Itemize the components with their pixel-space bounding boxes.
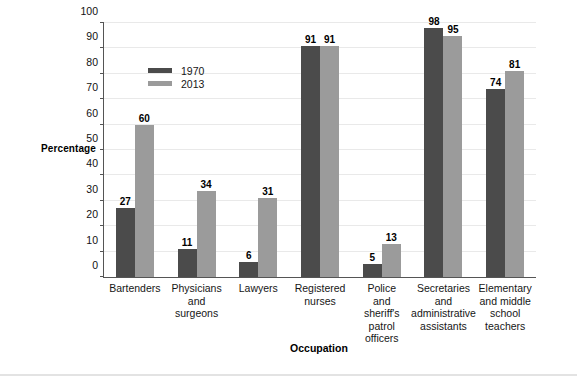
legend-label: 2013: [181, 78, 204, 90]
y-axis-tick-label: 0: [92, 259, 104, 271]
legend-item[interactable]: 1970: [148, 64, 204, 77]
bar-group-bars: 513: [351, 23, 413, 277]
bar-group-bars: 9191: [289, 23, 351, 277]
y-axis-tick-label: 100: [80, 5, 104, 17]
y-axis-tick-label: 40: [86, 157, 104, 169]
bar-value-label: 5: [369, 252, 375, 263]
bar-group-bars: 2760: [104, 23, 166, 277]
legend-label: 1970: [181, 65, 204, 77]
y-axis-title: Percentage: [8, 143, 96, 154]
legend: 19702013: [148, 64, 204, 90]
bar-value-label: 81: [509, 59, 520, 70]
bar[interactable]: 95: [443, 36, 462, 277]
y-axis-tick-label: 10: [86, 234, 104, 246]
y-axis-tick-label: 60: [86, 107, 104, 119]
y-axis-tick-label: 50: [86, 132, 104, 144]
bar[interactable]: 6: [239, 262, 258, 277]
y-axis-tick-label: 20: [86, 208, 104, 220]
bar-value-label: 31: [262, 186, 273, 197]
y-axis-tick-label: 80: [86, 56, 104, 68]
bar-group: 7481Elementary and middle school teacher…: [474, 23, 536, 277]
bar-groups: 2760Bartenders1134Physicians and surgeon…: [104, 23, 536, 277]
bar[interactable]: 74: [486, 89, 505, 277]
y-axis-tick-label: 90: [86, 30, 104, 42]
bar[interactable]: 91: [301, 46, 320, 277]
bar[interactable]: 81: [505, 71, 524, 277]
plot-area: 0102030405060708090100 2760Bartenders113…: [103, 23, 536, 278]
bar[interactable]: 60: [135, 125, 154, 277]
bar-group: 631Lawyers: [227, 23, 289, 277]
bar[interactable]: 13: [382, 244, 401, 277]
bar-value-label: 34: [201, 179, 212, 190]
bar-value-label: 27: [120, 196, 131, 207]
bar-group-bars: 1134: [166, 23, 228, 277]
bar-group: 513Police and sheriff's patrol officers: [351, 23, 413, 277]
bar-value-label: 74: [490, 77, 501, 88]
bar-value-label: 98: [428, 16, 439, 27]
bar[interactable]: 5: [363, 264, 382, 277]
bar[interactable]: 91: [320, 46, 339, 277]
bar-value-label: 95: [447, 24, 458, 35]
bar-group: 1134Physicians and surgeons: [166, 23, 228, 277]
legend-swatch: [148, 68, 172, 73]
bar-group: 9191Registered nurses: [289, 23, 351, 277]
bar-value-label: 60: [139, 113, 150, 124]
bar-value-label: 91: [324, 34, 335, 45]
legend-swatch: [148, 81, 172, 86]
bar-group: 2760Bartenders: [104, 23, 166, 277]
bar[interactable]: 27: [116, 208, 135, 277]
bar-group-bars: 631: [227, 23, 289, 277]
bar-value-label: 91: [305, 34, 316, 45]
bar[interactable]: 31: [258, 198, 277, 277]
x-axis-title: Occupation: [103, 342, 535, 354]
bar[interactable]: 98: [424, 28, 443, 277]
bar-value-label: 6: [246, 250, 252, 261]
x-axis-category-label: Elementary and middle school teachers: [460, 282, 550, 332]
bar-group-bars: 7481: [474, 23, 536, 277]
bar-group-bars: 9895: [413, 23, 475, 277]
y-axis-tick-label: 30: [86, 183, 104, 195]
bar[interactable]: 11: [178, 249, 197, 277]
bar[interactable]: 34: [197, 191, 216, 277]
bar-value-label: 11: [182, 237, 193, 248]
bar-group: 9895Secretaries and administrative assis…: [413, 23, 475, 277]
y-axis-tick-label: 70: [86, 81, 104, 93]
legend-item[interactable]: 2013: [148, 77, 204, 90]
bar-value-label: 13: [386, 232, 397, 243]
bar-chart-figure: Percentage 0102030405060708090100 2760Ba…: [0, 0, 577, 376]
